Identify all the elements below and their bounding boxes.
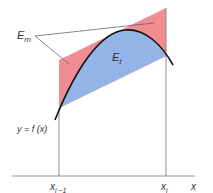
function-label: y = f (x) [16,124,47,134]
numerical-integration-diagram: Em Et y = f (x) xi −1 xi x [0,0,213,193]
x-right-label: xi [160,181,168,193]
x-left-label: xi −1 [49,181,67,193]
em-label: Em [17,29,31,44]
em-leader-line-region [35,36,69,64]
x-axis-label: x [190,181,197,192]
